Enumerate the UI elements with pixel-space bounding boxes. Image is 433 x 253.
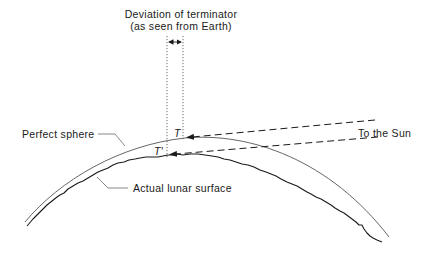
sun-ray-upper <box>187 120 375 138</box>
point-t-label: T <box>174 127 181 139</box>
perfect-sphere-label: Perfect sphere <box>22 128 95 140</box>
title-line-1: Deviation of terminator <box>101 8 261 20</box>
actual-lunar-surface <box>27 154 382 242</box>
title-line-2: (as seen from Earth) <box>101 20 261 32</box>
point-t-prime-label: T′ <box>154 145 163 157</box>
to-the-sun-label: To the Sun <box>358 127 411 139</box>
perfect-sphere-leader <box>98 134 125 146</box>
sun-ray-lower <box>170 137 378 155</box>
actual-surface-label: Actual lunar surface <box>133 182 232 194</box>
actual-surface-leader <box>97 177 128 188</box>
terminator-deviation-diagram: Deviation of terminator (as seen from Ea… <box>0 0 433 253</box>
